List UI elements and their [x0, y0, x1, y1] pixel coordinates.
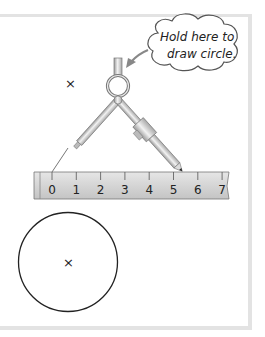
ruler-label-7: 7 — [218, 183, 226, 197]
callout-text-line1: Hold here to — [160, 30, 234, 44]
compass-needle — [52, 148, 68, 172]
ruler-label-4: 4 — [145, 183, 153, 197]
circle-center-cross-icon: × — [63, 255, 74, 270]
pencil — [148, 134, 179, 168]
ruler-label-3: 3 — [121, 183, 129, 197]
ruler-label-2: 2 — [97, 183, 105, 197]
ruler-label-0: 0 — [48, 183, 56, 197]
cross-mark-icon: × — [65, 76, 76, 91]
callout-text-line2: draw circle. — [167, 47, 237, 61]
ruler-label-5: 5 — [170, 183, 178, 197]
ruler-label-1: 1 — [72, 183, 80, 197]
ruler: 0 1 2 3 4 5 6 7 — [34, 172, 229, 199]
compass-handle — [114, 58, 122, 76]
ruler-label-6: 6 — [194, 183, 202, 197]
compass-diagram: Hold here to draw circle. × — [0, 0, 265, 337]
compass-hinge — [114, 96, 122, 104]
